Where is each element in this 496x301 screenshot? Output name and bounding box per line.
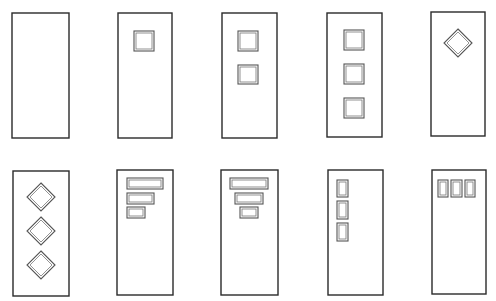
window-pane-inner (346, 100, 362, 116)
window-pane-inner (232, 180, 266, 187)
door-2 (118, 13, 172, 138)
window-pane-inner (129, 195, 152, 202)
door-designs-diagram (0, 0, 496, 301)
doors-group (12, 12, 486, 296)
door-1 (12, 13, 69, 138)
window-pane-inner (346, 32, 362, 48)
door-8 (221, 170, 278, 295)
door-6 (13, 171, 69, 296)
door-outline (12, 13, 69, 138)
door-10 (432, 170, 486, 294)
window-pane-inner (136, 33, 152, 49)
window-pane-inner (240, 33, 256, 49)
door-outline (328, 170, 383, 295)
door-7 (117, 170, 173, 295)
window-pane-inner (129, 209, 143, 216)
window-pane-inner (440, 182, 446, 195)
window-pane-inner (129, 180, 161, 187)
window-pane-inner (240, 67, 256, 82)
door-3 (222, 13, 277, 138)
window-pane-inner (346, 66, 362, 82)
window-pane-inner (339, 203, 346, 217)
door-4 (327, 13, 382, 137)
window-pane-inner (242, 209, 256, 216)
door-5 (431, 12, 485, 136)
window-pane-inner (467, 182, 473, 195)
window-pane-inner (339, 225, 346, 239)
window-pane-inner (339, 182, 346, 195)
window-pane-inner (237, 195, 261, 202)
door-9 (328, 170, 383, 295)
window-pane-inner (453, 182, 460, 195)
